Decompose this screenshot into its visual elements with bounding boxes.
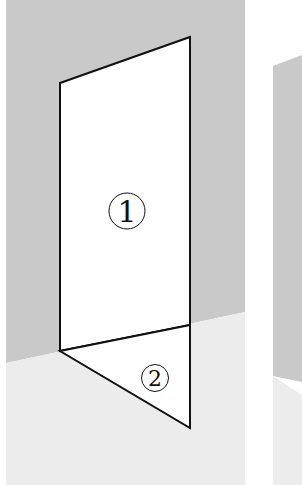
floor-right (273, 376, 302, 485)
region-2-number: 2 (148, 366, 162, 391)
diagram-canvas: 1 2 (0, 0, 302, 485)
region-1-number: 1 (117, 194, 136, 229)
wall-right (273, 55, 302, 382)
